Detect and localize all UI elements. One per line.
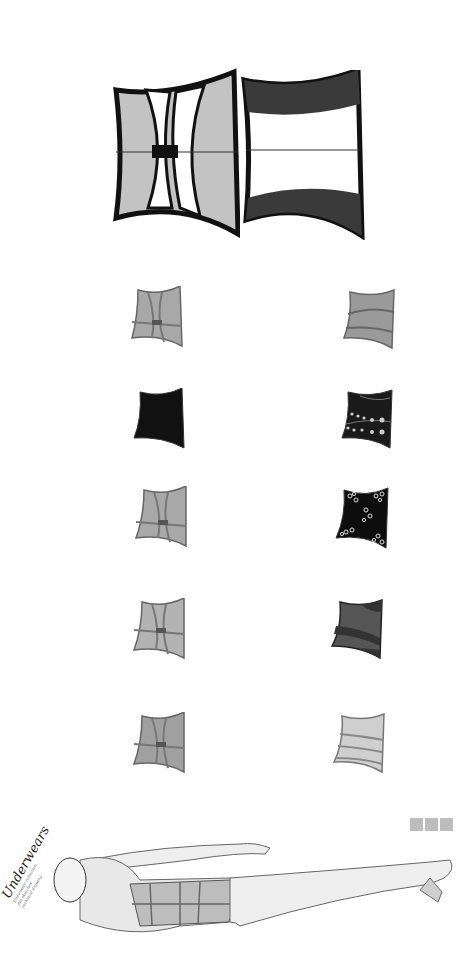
variant-v2[interactable] xyxy=(342,288,400,350)
variant-v1[interactable] xyxy=(130,286,188,348)
variant-grid xyxy=(0,280,463,780)
corset-back-drawing xyxy=(240,70,365,240)
hero-back-flat xyxy=(240,70,365,240)
variant-v10[interactable] xyxy=(332,712,390,774)
hero-front-flat xyxy=(110,68,240,238)
variant-v7[interactable] xyxy=(132,598,190,660)
variant-v6[interactable] xyxy=(334,486,394,550)
fashion-figure xyxy=(40,830,463,950)
variant-v8[interactable] xyxy=(330,598,388,660)
variant-v4[interactable] xyxy=(340,388,398,450)
variant-v5[interactable] xyxy=(134,486,192,548)
variant-v3[interactable] xyxy=(132,388,190,450)
corset-front-drawing xyxy=(110,68,240,238)
variant-v9[interactable] xyxy=(132,712,190,774)
